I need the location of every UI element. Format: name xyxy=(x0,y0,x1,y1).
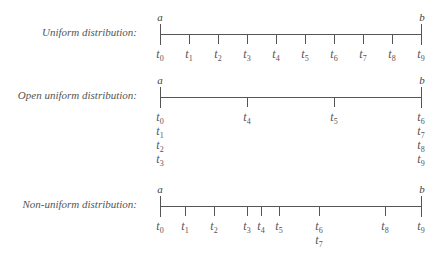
knot-tick xyxy=(363,34,364,44)
knot-label-t8: t8 xyxy=(388,47,395,63)
end-tick-start xyxy=(160,24,161,45)
knot-label-t4: t4 xyxy=(243,110,250,126)
start-label-a: a xyxy=(157,183,163,195)
knot-tick xyxy=(276,34,277,44)
knot-tick xyxy=(247,206,248,216)
row-label: Non-uniform distribution: xyxy=(0,198,137,210)
end-tick-start xyxy=(160,87,161,108)
axis-line xyxy=(160,97,422,98)
knot-label-t3: t3 xyxy=(243,47,250,63)
knot-label-t2: t2 xyxy=(210,219,217,235)
knot-tick xyxy=(334,97,335,107)
knot-label-t3: t3 xyxy=(156,152,163,168)
knot-label-t4: t4 xyxy=(272,47,279,63)
end-label-b: b xyxy=(419,183,425,195)
end-tick-start xyxy=(160,196,161,217)
knot-tick xyxy=(218,34,219,44)
knot-label-t5: t5 xyxy=(330,110,337,126)
axis-line xyxy=(160,206,422,207)
knot-label-t0: t0 xyxy=(156,219,163,235)
end-tick-end xyxy=(421,196,422,217)
knot-tick xyxy=(185,206,186,216)
knot-label-t0: t0 xyxy=(156,47,163,63)
knot-tick xyxy=(279,206,280,216)
knot-label-t9: t9 xyxy=(417,219,424,235)
knot-tick xyxy=(247,97,248,107)
knot-label-t5: t5 xyxy=(301,47,308,63)
knot-tick xyxy=(247,34,248,44)
row-label: Open uniform distribution: xyxy=(0,89,137,101)
knot-tick xyxy=(319,206,320,216)
knot-tick xyxy=(214,206,215,216)
knot-label-t1: t1 xyxy=(181,219,188,235)
end-tick-end xyxy=(421,24,422,45)
knot-label-t6: t6 xyxy=(330,47,337,63)
knot-tick xyxy=(189,34,190,44)
knot-label-t9: t9 xyxy=(417,47,424,63)
knot-label-t8: t8 xyxy=(381,219,388,235)
knot-label-t5: t5 xyxy=(275,219,282,235)
knot-label-t4: t4 xyxy=(257,219,264,235)
knot-tick xyxy=(385,206,386,216)
knot-tick xyxy=(334,34,335,44)
end-label-b: b xyxy=(419,11,425,23)
knot-tick xyxy=(305,34,306,44)
end-label-b: b xyxy=(419,74,425,86)
knot-label-t3: t3 xyxy=(243,219,250,235)
knot-label-t2: t2 xyxy=(214,47,221,63)
knot-label-t1: t1 xyxy=(185,47,192,63)
knot-label-t7: t7 xyxy=(315,233,322,249)
knot-label-t9: t9 xyxy=(417,152,424,168)
end-tick-end xyxy=(421,87,422,108)
knot-tick xyxy=(392,34,393,44)
row-label: Uniform distribution: xyxy=(0,26,137,38)
knot-label-t7: t7 xyxy=(359,47,366,63)
axis-line xyxy=(160,34,422,35)
knot-tick xyxy=(261,206,262,216)
start-label-a: a xyxy=(157,74,163,86)
start-label-a: a xyxy=(157,11,163,23)
